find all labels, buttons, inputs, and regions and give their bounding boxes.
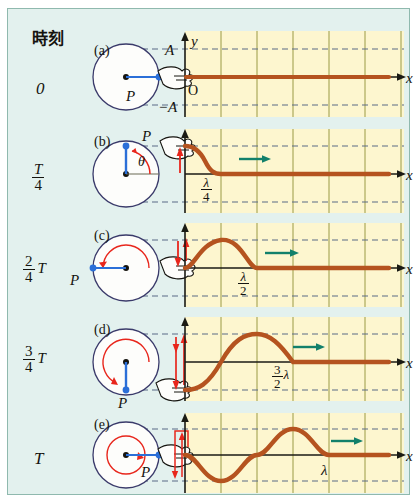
y-axis-arrow-d [181,317,189,326]
point-p-label-c: P [70,272,79,289]
velocity-arrow-d [293,343,325,350]
y-axis-arrow-b [181,129,189,138]
x-axis-label-d: x [405,355,413,371]
distance-label-e: λ [320,462,328,478]
panel-tag-e: (e) [94,417,110,433]
displacement-arrowhead-e [172,471,178,479]
panel-c-graphics: x (c) [8,217,411,311]
x-axis-label-b: x [405,167,413,183]
point-p-label-a: P [125,88,135,104]
point-p-d [123,387,130,394]
distance-b-numerator: λ [201,176,212,190]
point-p-label-e: P [140,464,150,480]
point-p-label-b: P [141,128,151,144]
panel-tag-a: (a) [94,43,110,59]
distance-c-denominator: 2 [238,284,249,297]
x-axis-label-e: x [405,448,413,464]
origin-label-a: O [188,83,198,98]
panel-a-graphics: y x A −A O P (a) [8,29,411,121]
panel-d: x (d) 3 2 λ P [8,311,411,407]
distance-label-b: λ 4 [201,176,212,203]
y-axis-label-a: y [189,33,198,49]
panel-b: θ x P (b) [8,121,411,217]
panel-tag-d: (d) [94,322,111,338]
panel-tag-c: (c) [94,228,110,244]
panel-tag-b: (b) [94,134,111,150]
distance-d-symbol: λ [284,367,290,382]
panel-d-graphics: x (d) [8,311,411,407]
grid-lines-d [221,317,401,401]
panel-e-graphics: x λ P (e) [8,407,411,499]
y-axis-arrow-a [181,32,189,41]
velocity-arrow-e [331,437,363,444]
distance-b-denominator: 4 [201,190,212,203]
string-wave-b [185,146,389,174]
panel-c: x (c) λ 2 P [8,217,411,311]
distance-d-numerator: 3 [272,363,283,377]
displacement-arrowhead-mid-d [173,344,180,353]
y-axis-arrow-e [181,413,189,422]
distance-d-denominator: 2 [272,377,283,390]
panel-e: x λ P (e) [8,407,411,499]
y-axis-arrow-c [181,223,189,232]
grid-lines-b [221,129,401,213]
point-p-c [90,265,97,272]
amplitude-top-label-a: A [164,42,175,58]
distance-label-d: 3 2 λ [272,363,289,390]
grid-lines-a [221,31,401,117]
velocity-arrow-b [239,155,271,162]
wave-generation-figure: 時刻 0 T 4 2 4 T 3 4 T T [7,8,410,495]
x-axis-label-c: x [405,261,413,277]
panel-a: y x A −A O P (a) [8,29,411,121]
distance-c-numerator: λ [238,270,249,284]
distance-label-c: λ 2 [238,270,249,297]
point-p-b [123,143,130,150]
displacement-arrowhead2-d [181,334,188,343]
amplitude-bottom-label-a: −A [158,99,178,115]
x-axis-label-a: x [405,70,413,86]
velocity-arrow-c [265,249,299,256]
theta-label-b: θ [138,154,145,169]
displacement-arrowhead2-c [183,238,190,247]
